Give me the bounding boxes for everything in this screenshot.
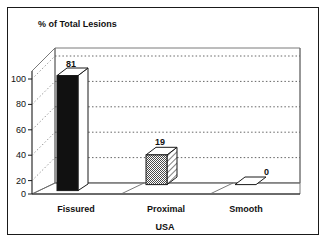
bar-value-label-smooth: 0	[264, 167, 269, 177]
y-axis-ticks	[28, 79, 32, 194]
category-label-proximal: Proximal	[147, 204, 185, 214]
ytick-label-80: 80	[16, 99, 26, 109]
ytick-label-100: 100	[11, 74, 26, 84]
category-label-fissured: Fissured	[57, 204, 95, 214]
bar-proximal[interactable]	[146, 147, 177, 184]
ytick-label-20: 20	[16, 176, 26, 186]
ytick-label-60: 60	[16, 125, 26, 135]
chart-screenshot: 100 80 60 40 20 0 81 19 0 Fissured P	[0, 0, 328, 252]
bar-value-label-fissured: 81	[66, 59, 76, 69]
ytick-label-40: 40	[16, 150, 26, 160]
bar-fissured[interactable]	[57, 68, 88, 191]
tick-depth-40	[32, 132, 55, 155]
tick-depth-20	[32, 158, 55, 181]
tick-depth-connectors	[32, 56, 55, 181]
depth-line-top-left	[32, 48, 55, 71]
bar-chart-3d: 100 80 60 40 20 0 81 19 0 Fissured P	[0, 0, 328, 252]
x-axis-title: USA	[155, 222, 175, 232]
y-axis-title: % of Total Lesions	[38, 19, 117, 29]
bar-proximal-front	[146, 155, 167, 185]
ytick-label-0: 0	[21, 189, 26, 199]
tick-depth-60	[32, 107, 55, 130]
bar-fissured-side	[78, 68, 88, 191]
tick-depth-80	[32, 81, 55, 104]
bar-fissured-front	[57, 76, 78, 191]
bar-value-label-proximal: 19	[155, 137, 165, 147]
category-label-smooth: Smooth	[229, 204, 263, 214]
